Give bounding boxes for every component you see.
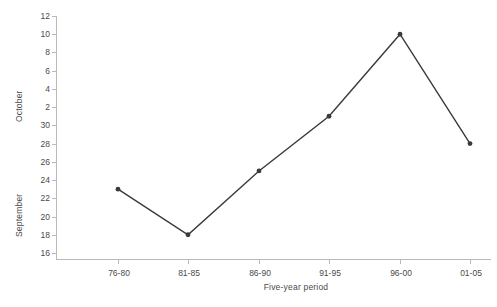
series-line-peak-date bbox=[118, 34, 470, 235]
chart-canvas: October September 12 10 8 6 4 2 30 28 26… bbox=[0, 0, 497, 307]
data-point bbox=[327, 114, 332, 119]
data-point bbox=[398, 32, 403, 37]
data-point bbox=[468, 141, 473, 146]
data-point bbox=[257, 169, 262, 174]
data-series-layer bbox=[0, 0, 497, 307]
data-point bbox=[116, 187, 121, 192]
data-point bbox=[186, 232, 191, 237]
